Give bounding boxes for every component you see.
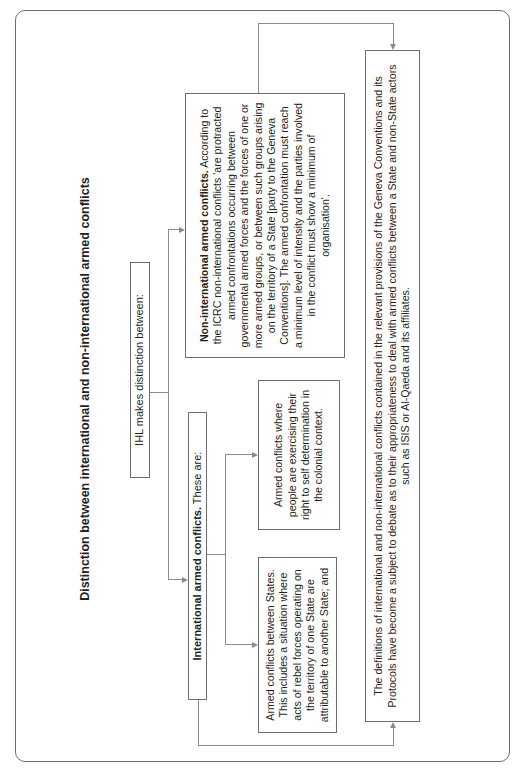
- self-determination-text: Armed conflicts where people are exercis…: [272, 387, 326, 523]
- non-international-definition: According to the ICRC non-international …: [198, 103, 331, 349]
- connector-iac-bar: [225, 454, 226, 645]
- root-box: IHL makes distinction between:: [130, 262, 150, 478]
- international-subheading: These are:: [191, 452, 203, 507]
- connector-iac-to-conclusion-a: [198, 700, 199, 746]
- connector-iac-stem: [207, 554, 225, 555]
- non-international-text: Non-international armed conflicts. Accor…: [198, 102, 332, 349]
- international-box: International armed conflicts. These are…: [188, 412, 207, 700]
- self-determination-box: Armed conflicts where people are exercis…: [258, 380, 340, 530]
- connector-to-states: [225, 644, 252, 645]
- connector-iac-to-conclusion-b: [198, 745, 394, 746]
- connector-niac-to-conclusion-b: [258, 23, 394, 24]
- connector-root-stem: [150, 392, 168, 393]
- connector-iac-to-conclusion-c: [393, 728, 394, 746]
- non-international-heading: Non-international armed conflicts.: [198, 170, 210, 342]
- international-text: International armed conflicts. These are…: [191, 452, 204, 661]
- connector-to-iac: [168, 579, 182, 580]
- connector-niac-to-conclusion-a: [258, 24, 259, 93]
- root-label: IHL makes distinction between:: [133, 294, 146, 446]
- diagram-title: Distinction between international and no…: [77, 139, 93, 639]
- between-states-text: Armed conflicts between States. This inc…: [264, 564, 331, 726]
- connector-branch-bar: [168, 229, 169, 580]
- arrow-iac-to-conclusion-icon: [390, 722, 396, 728]
- between-states-box: Armed conflicts between States. This inc…: [258, 557, 337, 733]
- connector-to-niac: [168, 229, 179, 230]
- conclusion-box: The definitions of international and non…: [365, 50, 420, 722]
- conclusion-text: The definitions of international and non…: [372, 61, 412, 711]
- connector-niac-to-conclusion-c: [393, 24, 394, 44]
- connector-to-colonial: [225, 454, 252, 455]
- non-international-box: Non-international armed conflicts. Accor…: [185, 93, 345, 358]
- international-heading: International armed conflicts.: [191, 507, 203, 660]
- diagram-canvas: Distinction between international and no…: [0, 0, 520, 779]
